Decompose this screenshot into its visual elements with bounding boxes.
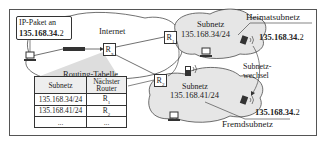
packet-bar — [63, 47, 85, 51]
header-next-router: NächsterRouter — [87, 77, 127, 94]
home-subnet-prefix: 135.168.34/24 — [181, 30, 230, 39]
router-r1: R1 — [164, 31, 177, 44]
sender-computer-icon — [24, 52, 36, 61]
subnet-change-line1: Subnetz- — [243, 62, 271, 71]
packet-address: 135.168.34.2 — [19, 28, 64, 38]
table-row: 135.168.34/24 R1 — [35, 94, 127, 106]
foreign-host-address: 135.168.34.2 — [255, 108, 300, 117]
table-row: ... ... — [35, 117, 127, 128]
ip-packet-callout: IP-Paket an 135.168.34.2 — [16, 16, 72, 40]
header-subnet: Subnetz — [35, 77, 87, 94]
home-computer-icon — [200, 48, 212, 57]
foreign-computer-icon — [168, 112, 180, 121]
routing-table-header: Subnetz NächsterRouter — [35, 77, 127, 94]
foreign-subnet-prefix: 135.168.41/24 — [170, 91, 219, 100]
subnet-change-line2: wechsel — [243, 71, 269, 80]
home-subnet-label: Heimatsubnetz — [246, 13, 300, 22]
foreign-subnet-label: Fremdsubnetz — [222, 120, 273, 129]
packet-line1: IP-Paket an — [19, 18, 56, 27]
table-row: 135.168.41/24 R2 — [35, 105, 127, 117]
internet-label: Internet — [99, 27, 125, 36]
router-r2: R2 — [154, 74, 167, 87]
routing-table: Subnetz NächsterRouter 135.168.34/24 R1 … — [34, 76, 127, 128]
home-subnet-title: Subnetz — [197, 20, 224, 29]
home-host-address: 135.168.34.2 — [259, 33, 304, 42]
router-rx: Rx — [103, 43, 116, 56]
